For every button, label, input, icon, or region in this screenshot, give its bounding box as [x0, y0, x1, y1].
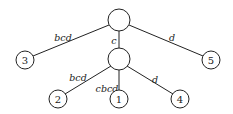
node-mid — [108, 48, 130, 70]
nodes: 3 5 2 1 4 — [16, 9, 220, 108]
edge-root-5 — [129, 25, 203, 56]
tree-diagram: bcd c d bcd cbcd d 3 5 2 1 4 — [0, 0, 233, 114]
edge-label-mid-2: bcd — [69, 72, 86, 83]
edge-mid-4 — [127, 66, 173, 94]
node-root — [108, 9, 130, 31]
node-4-label: 4 — [177, 94, 183, 105]
node-2-label: 2 — [55, 94, 61, 105]
edge-label-mid-4: d — [152, 74, 158, 85]
node-3-label: 3 — [22, 55, 28, 66]
edge-label-root-3: bcd — [54, 32, 71, 43]
edge-label-root-5: d — [169, 32, 175, 43]
node-1-label: 1 — [116, 94, 122, 105]
edge-label-root-mid: c — [111, 35, 117, 46]
node-5-label: 5 — [208, 55, 214, 66]
